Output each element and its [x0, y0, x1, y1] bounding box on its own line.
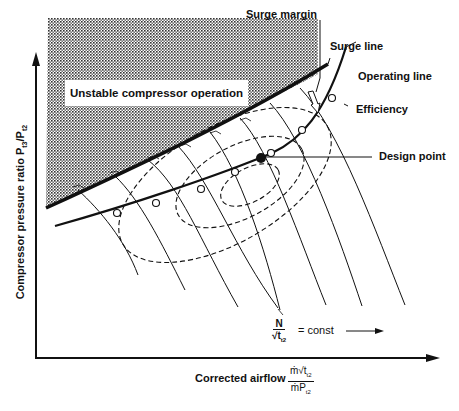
x-axis-label: Corrected airflow	[195, 372, 285, 384]
compressor-map-diagram	[0, 0, 459, 411]
unstable-region	[46, 18, 318, 208]
design-point-marker	[256, 153, 266, 163]
design-point-label: Design point	[379, 150, 446, 162]
efficiency-label: Efficiency	[356, 103, 408, 115]
speed-arrow-icon	[375, 328, 384, 334]
y-axis-label: Compressor pressure ratio Pt3/Pt2	[14, 112, 28, 312]
y-axis-arrow-icon	[32, 52, 40, 66]
speed-line-formula: N √tt2	[272, 318, 286, 346]
x-axis-formula: ṁ√tt2 ṁPt2	[288, 365, 314, 398]
x-axis-arrow-icon	[426, 354, 440, 362]
unstable-region-label: Unstable compressor operation	[65, 80, 248, 106]
surge-margin-label: Surge margin	[246, 8, 317, 20]
speed-line-const: = const	[298, 324, 334, 336]
surge-line-label: Surge line	[330, 40, 383, 52]
surge-margin-arrow-icon	[308, 91, 320, 113]
operating-line-label: Operating line	[358, 70, 432, 82]
